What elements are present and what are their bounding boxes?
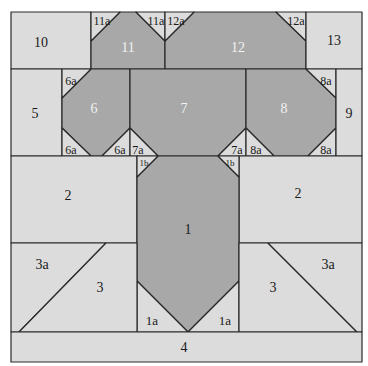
label-7a-right: 7a bbox=[231, 143, 243, 157]
quilt-block-diagram: 10 11 11a 11a 12 12a 12a 13 5 6 6a 6a 6a… bbox=[0, 0, 368, 366]
label-1a-left: 1a bbox=[146, 313, 159, 328]
label-8: 8 bbox=[281, 101, 288, 116]
label-6a-bottom-left: 6a bbox=[65, 143, 77, 157]
label-3a-left: 3a bbox=[35, 257, 49, 272]
piece-7 bbox=[130, 69, 246, 156]
label-13: 13 bbox=[327, 33, 341, 48]
label-9: 9 bbox=[346, 106, 353, 121]
label-2-right: 2 bbox=[295, 186, 302, 201]
label-6a-top: 6a bbox=[65, 74, 77, 88]
label-1b-left: 1b bbox=[140, 158, 150, 168]
label-4: 4 bbox=[181, 340, 188, 355]
piece-2-left bbox=[11, 156, 137, 243]
label-7a-left: 7a bbox=[132, 143, 144, 157]
label-5: 5 bbox=[32, 106, 39, 121]
label-2-left: 2 bbox=[65, 188, 72, 203]
label-6: 6 bbox=[91, 101, 98, 116]
label-1: 1 bbox=[185, 222, 192, 237]
label-6a-bottom-right: 6a bbox=[114, 143, 126, 157]
label-3-right: 3 bbox=[270, 280, 277, 295]
label-1b-right: 1b bbox=[226, 158, 236, 168]
label-12a-right: 12a bbox=[287, 14, 305, 28]
label-10: 10 bbox=[34, 35, 48, 50]
label-8a-bottom-right: 8a bbox=[320, 143, 332, 157]
label-3-left: 3 bbox=[97, 280, 104, 295]
label-8a-bottom-left: 8a bbox=[250, 143, 262, 157]
label-11a-right: 11a bbox=[148, 14, 166, 28]
label-7: 7 bbox=[181, 101, 188, 116]
label-11: 11 bbox=[121, 40, 134, 55]
label-3a-right: 3a bbox=[321, 257, 335, 272]
label-11a-left: 11a bbox=[94, 14, 112, 28]
label-12: 12 bbox=[231, 40, 245, 55]
label-12a-left: 12a bbox=[167, 14, 185, 28]
label-8a-top: 8a bbox=[320, 74, 332, 88]
label-1a-right: 1a bbox=[219, 313, 232, 328]
piece-10 bbox=[11, 12, 91, 69]
